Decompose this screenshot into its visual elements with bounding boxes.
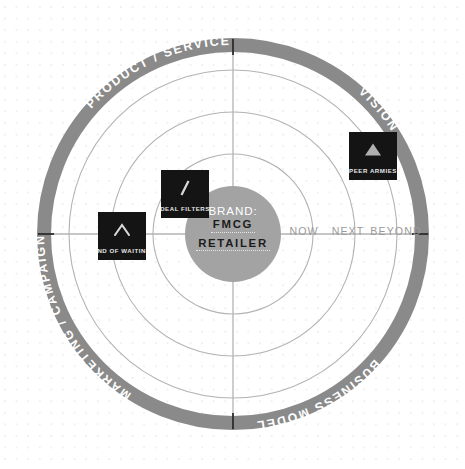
initiative-card-end-of-waiting[interactable]: END OF WAITING bbox=[98, 212, 146, 260]
quadrant-label-vision: VISION bbox=[356, 84, 402, 134]
brand-line-1: FMCG bbox=[211, 219, 255, 233]
triangle-up-icon bbox=[349, 132, 397, 167]
initiative-card-label: PEER ARMIES bbox=[349, 167, 397, 180]
initiative-card-peer-armies[interactable]: PEER ARMIES bbox=[349, 132, 397, 180]
brand-line-2: RETAILER bbox=[196, 238, 270, 252]
brand-caption: BRAND: bbox=[208, 204, 257, 217]
slash-icon bbox=[161, 170, 209, 205]
chevron-up-icon bbox=[98, 212, 146, 247]
initiative-card-deal-filters[interactable]: DEAL FILTERS bbox=[161, 170, 209, 218]
radar-canvas: PRODUCT / SERVICE VISION BUSINESS MODEL … bbox=[0, 0, 465, 469]
quadrant-label-marketing-campaigns: MARKETING / CAMPAIGNS bbox=[0, 0, 133, 403]
initiative-card-label: END OF WAITING bbox=[98, 247, 146, 260]
initiative-card-label: DEAL FILTERS bbox=[161, 205, 209, 218]
